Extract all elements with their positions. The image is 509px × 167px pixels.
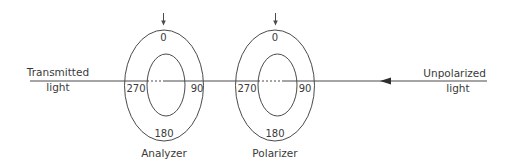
transmitted-light-label-line1: Transmitted xyxy=(26,66,89,78)
polarizer-inner-ring xyxy=(258,54,297,116)
polarizer-element: 0 90 180 270 Polarizer xyxy=(236,13,315,159)
analyzer-angle-180: 180 xyxy=(154,128,173,139)
analyzer-angle-270: 270 xyxy=(126,83,145,94)
analyzer-angle-90: 90 xyxy=(191,83,204,94)
analyzer-element: 0 90 180 270 Analyzer xyxy=(125,13,204,159)
analyzer-label: Analyzer xyxy=(141,147,187,159)
polarizer-label: Polarizer xyxy=(252,147,298,159)
analyzer-arrowhead-icon xyxy=(161,21,166,26)
unpolarized-light-label-line1: Unpolarized xyxy=(423,67,486,79)
beam-direction-arrow-icon xyxy=(380,78,391,85)
unpolarized-light-label-line2: light xyxy=(446,82,469,94)
polarizer-arrowhead-icon xyxy=(273,21,278,26)
polarization-diagram: 0 90 180 270 Analyzer 0 90 180 270 Polar… xyxy=(0,0,509,167)
analyzer-angle-0: 0 xyxy=(160,32,166,43)
polarizer-angle-180: 180 xyxy=(265,128,284,139)
polarizer-angle-90: 90 xyxy=(299,83,312,94)
analyzer-inner-ring xyxy=(147,54,185,116)
polarizer-angle-0: 0 xyxy=(272,32,278,43)
polarizer-angle-270: 270 xyxy=(237,83,256,94)
transmitted-light-label-line2: light xyxy=(46,81,69,93)
